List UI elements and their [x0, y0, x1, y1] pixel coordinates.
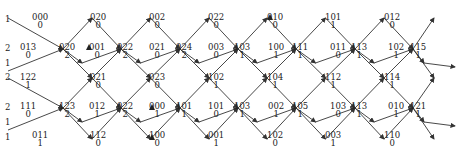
- node-value: 1: [89, 110, 105, 118]
- node-value: 1: [410, 110, 426, 118]
- node-label: 1121: [325, 73, 341, 89]
- node-label: 0210: [90, 73, 106, 89]
- node-label: 0210: [149, 43, 165, 59]
- node-label: 1031: [234, 43, 250, 59]
- node-value: 1: [268, 51, 284, 59]
- node-value: 2: [117, 110, 133, 118]
- node-label: 0130: [20, 43, 36, 59]
- row-label: 2: [5, 43, 10, 53]
- node-label: 0220: [208, 13, 224, 29]
- node-label: 1030: [330, 102, 346, 118]
- row-label: 1: [5, 117, 10, 127]
- node-label: 0110: [330, 43, 346, 59]
- node-value: 2: [59, 51, 75, 59]
- node-label: 0242: [176, 43, 192, 59]
- node-label: 0100: [267, 13, 283, 29]
- node-label: 0010: [89, 43, 105, 59]
- node-label: 0222: [117, 102, 133, 118]
- node-value: 0: [149, 51, 165, 59]
- node-value: 0: [32, 21, 48, 29]
- node-label: 0200: [90, 13, 106, 29]
- row-label: 1: [5, 14, 10, 24]
- node-label: 1131: [351, 102, 367, 118]
- node-value: 1: [325, 139, 341, 147]
- node-label: 0120: [384, 13, 400, 29]
- node-value: 0: [208, 51, 224, 59]
- node-value: 1: [410, 51, 426, 59]
- lattice-diagram: 1212211 00000200002002200100101101200130…: [0, 0, 470, 156]
- node-label: 1100: [384, 131, 400, 147]
- node-label: 0000: [32, 13, 48, 29]
- node-value: 1: [384, 81, 400, 89]
- node-value: 0: [20, 110, 36, 118]
- node-value: 0: [149, 139, 165, 147]
- node-label: 0222: [117, 43, 133, 59]
- node-label: 0101: [388, 102, 404, 118]
- node-value: 1: [325, 81, 341, 89]
- row-label: 2: [5, 102, 10, 112]
- node-label: 0011: [208, 131, 224, 147]
- row-label: 1: [5, 132, 10, 142]
- node-value: 1: [267, 81, 283, 89]
- node-label: 0111: [32, 131, 48, 147]
- node-label: 1131: [351, 43, 367, 59]
- node-label: 1111: [292, 43, 308, 59]
- node-value: 0: [267, 21, 283, 29]
- node-value: 0: [384, 21, 400, 29]
- node-label: 1011: [176, 102, 192, 118]
- node-label: 1011: [325, 13, 341, 29]
- node-label: 1211: [410, 102, 426, 118]
- node-value: 1: [32, 139, 48, 147]
- node-label: 1051: [292, 102, 308, 118]
- node-value: 0: [208, 21, 224, 29]
- node-value: 1: [292, 110, 308, 118]
- node-value: 1: [268, 110, 284, 118]
- node-value: 0: [149, 81, 165, 89]
- node-value: 0: [90, 139, 106, 147]
- node-label: 0001: [149, 102, 165, 118]
- node-value: 0: [20, 51, 36, 59]
- node-value: 0: [330, 51, 346, 59]
- node-value: 0: [90, 81, 106, 89]
- node-value: 0: [384, 139, 400, 147]
- node-label: 1120: [90, 131, 106, 147]
- node-value: 1: [234, 110, 250, 118]
- node-label: 1110: [20, 102, 36, 118]
- edge-arrow: [424, 63, 455, 67]
- node-value: 0: [90, 21, 106, 29]
- node-label: 1010: [208, 102, 224, 118]
- row-label: 2: [5, 72, 10, 82]
- node-label: 1151: [410, 43, 426, 59]
- node-value: 1: [20, 81, 36, 89]
- node-label: 0202: [59, 43, 75, 59]
- node-label: 0031: [325, 131, 341, 147]
- node-value: 1: [234, 51, 250, 59]
- node-value: 1: [176, 110, 192, 118]
- node-value: 0: [330, 110, 346, 118]
- node-value: 1: [149, 110, 165, 118]
- node-value: 2: [176, 51, 192, 59]
- edge-arrow: [424, 122, 455, 126]
- node-label: 1021: [208, 73, 224, 89]
- node-label: 1020: [267, 131, 283, 147]
- node-value: 0: [267, 139, 283, 147]
- node-value: 0: [149, 21, 165, 29]
- node-label: 1001: [268, 43, 284, 59]
- node-value: 1: [292, 51, 308, 59]
- node-label: 1221: [20, 73, 36, 89]
- node-label: 0020: [149, 13, 165, 29]
- node-label: 1031: [234, 102, 250, 118]
- node-value: 1: [208, 139, 224, 147]
- node-label: 1000: [149, 131, 165, 147]
- node-value: 1: [351, 110, 367, 118]
- node-value: 2: [117, 51, 133, 59]
- node-value: 2: [59, 110, 75, 118]
- node-label: 1041: [267, 73, 283, 89]
- node-label: 0030: [208, 43, 224, 59]
- node-value: 1: [208, 81, 224, 89]
- node-value: 0: [208, 110, 224, 118]
- node-label: 1021: [388, 43, 404, 59]
- node-value: 0: [89, 51, 105, 59]
- node-label: 0121: [89, 102, 105, 118]
- node-label: 0230: [149, 73, 165, 89]
